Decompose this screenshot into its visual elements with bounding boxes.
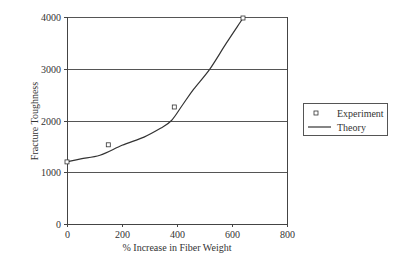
y-tick-label: 3000 [41, 64, 61, 75]
legend: Experiment Theory [304, 104, 388, 136]
legend-experiment-label: Experiment [337, 108, 384, 119]
legend-theory-label: Theory [337, 122, 366, 133]
experiment-point-marker-icon [65, 160, 69, 164]
x-tick-label: 400 [170, 229, 185, 240]
experiment-point-marker-icon [241, 16, 245, 20]
y-tick-label: 1000 [41, 167, 61, 178]
y-tick-label: 4000 [41, 12, 61, 23]
theory-series [67, 18, 243, 162]
x-tick-label: 800 [280, 229, 295, 240]
x-tick-label: 600 [225, 229, 240, 240]
y-axis-ticks: 01000200030004000 [41, 12, 67, 230]
y-tick-label: 2000 [41, 116, 61, 127]
x-tick-label: 200 [115, 229, 130, 240]
y-tick-label: 0 [56, 219, 61, 230]
x-axis-title: % Increase in Fiber Weight [123, 242, 232, 253]
legend-experiment-marker-icon [314, 111, 318, 115]
chart: 01000200030004000 0200400600800 Fracture… [0, 0, 408, 269]
theory-line [67, 18, 243, 162]
y-axis-title: Fracture Toughness [29, 82, 40, 160]
experiment-point-marker-icon [172, 105, 176, 109]
axes [67, 17, 288, 225]
experiment-series [65, 16, 245, 164]
gridlines [67, 18, 287, 173]
experiment-point-marker-icon [106, 143, 110, 147]
x-tick-label: 0 [65, 229, 70, 240]
x-axis-ticks: 0200400600800 [65, 224, 295, 240]
